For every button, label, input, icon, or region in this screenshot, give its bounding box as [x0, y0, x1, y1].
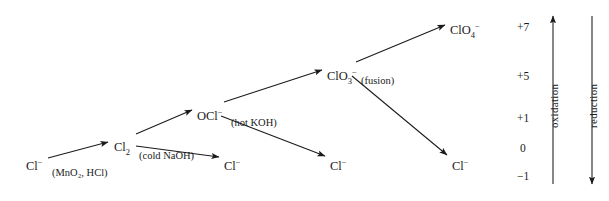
- node-cl-mid3: Cl−: [452, 158, 469, 173]
- oxidation-axis-label: oxidation: [548, 84, 560, 128]
- arrow-ocl-to-clo3: [224, 70, 322, 102]
- node-ocl: OCl−: [197, 108, 223, 123]
- condition-mno2-hcl: (MnO₂, HCl): [52, 168, 108, 179]
- arrow-clo3-to-clo4: [356, 25, 445, 62]
- diagram-canvas: Cl− Cl2 OCl− ClO3− ClO4− Cl− Cl− Cl− (Mn…: [0, 0, 609, 201]
- node-cl-mid1: Cl−: [224, 158, 241, 173]
- arrow-cl-to-cl2: [48, 142, 108, 158]
- node-cl2: Cl2: [114, 141, 130, 156]
- node-cl-mid2: Cl−: [330, 158, 347, 173]
- reduction-axis-label: reduction: [587, 84, 599, 128]
- condition-cold-naoh: (cold NaOH): [139, 151, 194, 162]
- condition-fusion: (fusion): [361, 76, 394, 87]
- oxidation-number-plus1: +1: [517, 113, 529, 125]
- oxidation-number-plus7: +7: [517, 22, 529, 34]
- oxidation-number-zero: 0: [520, 143, 526, 155]
- node-clo3: ClO3−: [327, 68, 357, 85]
- oxidation-number-minus1: −1: [517, 171, 529, 183]
- oxidation-number-plus5: +5: [517, 71, 529, 83]
- node-clo4: ClO4−: [450, 22, 480, 39]
- arrow-clo3-to-cl-mid3: [352, 76, 447, 155]
- arrow-cl2-to-ocl: [136, 110, 192, 134]
- condition-hot-koh: (hot KOH): [231, 118, 277, 129]
- node-cl-start: Cl−: [26, 158, 43, 173]
